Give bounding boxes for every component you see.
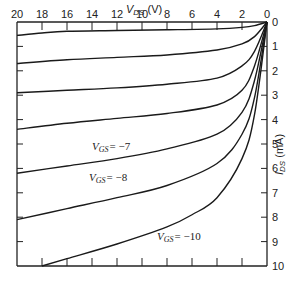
label-vgs-10: VGS= −10 [157,230,201,244]
x-tick-label: 6 [189,8,195,20]
y-tick-label: 9 [272,236,278,248]
x-tick-label: 12 [111,8,123,20]
y-tick-label: 2 [272,65,278,77]
x-tick-label: 4 [214,8,220,20]
y-tick-label: 4 [272,114,278,126]
x-tick-label: 18 [36,8,48,20]
curve-curve-6 [17,22,267,220]
label-vgs-7: VGS= −7 [92,140,131,154]
y-tick-label: 3 [272,89,278,101]
y-tick-label: 0 [272,16,278,28]
x-tick-label: 16 [61,8,73,20]
curve-v-gs-10 [42,22,267,266]
x-tick-label: 14 [86,8,98,20]
y-tick-label: 7 [272,187,278,199]
curves [17,22,267,266]
x-axis-title: VDS (V) [126,3,162,17]
y-tick-label: 8 [272,211,278,223]
y-tick-label: 10 [272,260,284,272]
plot-frame [17,22,267,266]
y-tick-label: 1 [272,40,278,52]
iv-characteristic-chart: 20181614121086420 012345678910 VDS (V) I… [0,0,288,282]
x-tick-label: 20 [11,8,23,20]
curve-v-gs-7 [17,22,267,129]
label-vgs-8: VGS= −8 [89,171,128,185]
x-tick-label: 2 [239,8,245,20]
x-tick-label: 8 [164,8,170,20]
x-tick-label: 0 [264,8,270,20]
curve-v-gs-8 [17,22,267,173]
